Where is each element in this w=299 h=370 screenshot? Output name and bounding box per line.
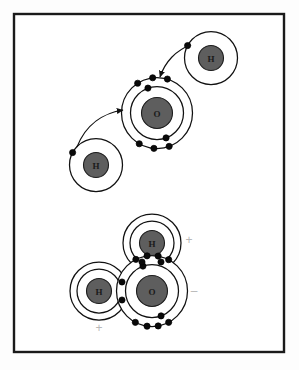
partial-positive-charge-bottom: +	[95, 321, 102, 335]
oxygen-atom-water-outer-electron-5	[166, 319, 172, 325]
oxygen-atom-water-outer-electron-6	[155, 323, 161, 329]
oxygen-atom-water-outer-electron-8	[132, 319, 138, 325]
oxygen-atom-water-inner-electron-2	[158, 313, 164, 319]
oxygen-atom-top-outer-electron-6	[136, 141, 142, 147]
hydrogen-atom-water-top-nucleus	[140, 231, 165, 256]
shared-pair-oxygen-left-hydrogen-electron-1	[119, 279, 125, 285]
oxygen-atom-top-inner-electron-2	[163, 135, 169, 141]
hydrogen-atom-water-left-nucleus	[87, 279, 112, 304]
oxygen-atom-water-outer-electron-1	[133, 256, 139, 262]
oxygen-atom-top-outer-electron-5	[151, 145, 157, 151]
oxygen-atom-top-nucleus	[142, 98, 173, 129]
hydrogen-atom-left-electron-1	[70, 149, 76, 155]
shared-pair-oxygen-top-hydrogen-electron-1	[139, 259, 145, 265]
hydrogen-atom-left-nucleus	[84, 153, 109, 178]
partial-negative-charge: –	[191, 284, 198, 298]
oxygen-atom-water-outer-electron-4	[166, 257, 172, 263]
figure-root: HHOHHO +–+	[0, 0, 299, 370]
partial-positive-charge-right: +	[185, 233, 192, 247]
oxygen-atom-water-outer-electron-3	[155, 253, 161, 259]
hydrogen-atom-top-right-nucleus	[199, 46, 224, 71]
oxygen-atom-water-outer-electron-7	[144, 323, 150, 329]
oxygen-atom-top-outer-electron-1	[135, 80, 141, 86]
oxygen-atom-top-outer-electron-2	[150, 75, 156, 81]
oxygen-atom-water-outer-electron-2	[144, 253, 150, 259]
shared-pair-oxygen-top-hydrogen-electron-2	[158, 259, 164, 265]
water-bonding-diagram: HHOHHO +–+	[0, 0, 299, 370]
oxygen-atom-top-inner-electron-1	[145, 85, 151, 91]
oxygen-atom-top-outer-electron-3	[164, 76, 170, 82]
oxygen-atom-water-nucleus	[137, 276, 168, 307]
shared-pair-oxygen-left-hydrogen-electron-2	[119, 297, 125, 303]
oxygen-atom-top-outer-electron-4	[166, 143, 172, 149]
